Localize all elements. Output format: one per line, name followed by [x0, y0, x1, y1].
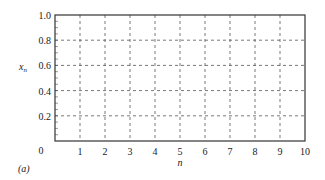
x-axis-label: n [178, 157, 183, 168]
y-tick-label: 0 [39, 145, 44, 156]
x-tick-label: 1 [78, 146, 83, 157]
chart-canvas: 12345678910 00.20.40.60.81.0 n xn (a) [0, 0, 325, 180]
y-tick-label: 0.4 [39, 86, 52, 97]
y-tick-label: 1.0 [39, 10, 52, 21]
x-tick-label: 10 [300, 146, 310, 157]
panel-label: (a) [18, 163, 30, 175]
y-axis-label: xn [18, 61, 27, 74]
grid-lines [55, 15, 305, 141]
y-axis-tick-labels: 00.20.40.60.81.0 [39, 10, 52, 156]
x-tick-label: 4 [153, 146, 158, 157]
x-tick-label: 6 [203, 146, 208, 157]
x-tick-label: 2 [103, 146, 108, 157]
y-tick-label: 0.2 [39, 111, 52, 122]
x-tick-label: 7 [228, 146, 233, 157]
x-axis-tick-labels: 12345678910 [78, 146, 311, 157]
x-tick-label: 5 [178, 146, 183, 157]
y-tick-label: 0.6 [39, 60, 52, 71]
x-tick-label: 3 [128, 146, 133, 157]
x-tick-label: 8 [253, 146, 258, 157]
x-tick-label: 9 [278, 146, 283, 157]
y-tick-label: 0.8 [39, 35, 52, 46]
